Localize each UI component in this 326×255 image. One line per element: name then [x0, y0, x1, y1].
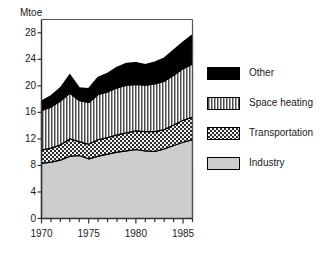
legend-item-industry: Industry: [207, 156, 325, 170]
legend-label: Industry: [249, 158, 285, 168]
stacked-area-chart: Mtoe 0481216202428 1970197519801985 Othe…: [0, 0, 326, 255]
legend-swatch-vertical-lines: [207, 97, 240, 110]
legend-item-space-heating: Space heating: [207, 96, 325, 110]
legend-item-transportation: Transportation: [207, 126, 325, 140]
legend-swatch-solid-black: [207, 67, 240, 80]
legend-label: Other: [249, 68, 274, 78]
legend-label: Space heating: [249, 98, 313, 108]
legend-label: Transportation: [249, 128, 313, 138]
legend-item-other: Other: [207, 66, 325, 80]
chart-legend: OtherSpace heatingTransportationIndustry: [207, 66, 325, 186]
legend-swatch-solid-light-gray: [207, 157, 240, 170]
legend-swatch-cross-hatch: [207, 127, 240, 140]
area-layers: [42, 35, 193, 219]
